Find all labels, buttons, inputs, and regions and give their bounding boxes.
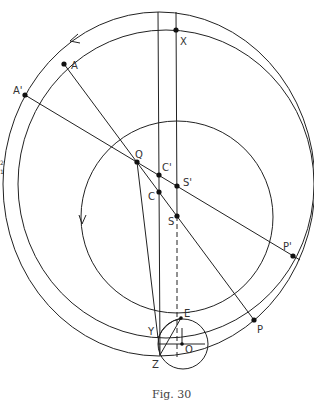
label-q: Q — [135, 149, 143, 160]
label-a: A — [71, 60, 78, 71]
diagram-canvas: X A A' Q C' S' C S P' P E O Y Z 2 1 Fig.… — [0, 0, 314, 406]
label-s-prime: S' — [183, 177, 192, 188]
second-orbit-circle — [18, 30, 314, 338]
point-q — [134, 159, 139, 164]
line-q-y — [137, 162, 158, 338]
line-a-prime-p-prime — [25, 95, 300, 260]
side-mark-1: 1 — [0, 168, 4, 175]
label-e: E — [184, 308, 190, 319]
direction-arrow-inner-icon — [79, 215, 86, 224]
point-c-prime — [156, 172, 161, 177]
label-a-prime: A' — [13, 85, 23, 96]
point-p-prime — [290, 253, 295, 258]
point-p — [251, 317, 256, 322]
side-mark-2: 2 — [0, 159, 4, 166]
point-a-prime — [22, 92, 27, 97]
label-s: S — [168, 216, 174, 227]
point-e — [179, 316, 183, 320]
point-a — [61, 61, 66, 66]
label-c: C — [148, 191, 155, 202]
arc-y-e — [158, 318, 181, 338]
label-p-prime: P' — [283, 241, 292, 252]
vertical-line-c — [158, 12, 160, 355]
label-z: Z — [152, 359, 159, 370]
label-y: Y — [147, 326, 155, 337]
point-o — [180, 342, 184, 346]
label-o: O — [185, 344, 193, 355]
line-z-e — [160, 318, 181, 355]
label-x: X — [180, 36, 187, 47]
point-s-prime — [174, 183, 179, 188]
point-s — [174, 213, 179, 218]
label-p: P — [257, 324, 263, 335]
point-x — [173, 27, 178, 32]
point-c — [156, 189, 161, 194]
figure-caption: Fig. 30 — [152, 388, 191, 401]
label-c-prime: C' — [162, 162, 172, 173]
